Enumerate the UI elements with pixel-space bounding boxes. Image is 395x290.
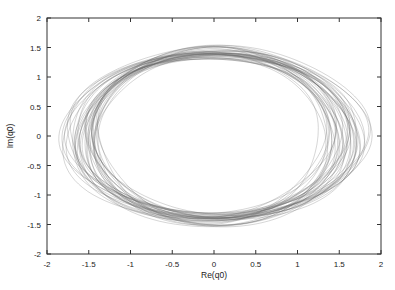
x-tick-label: -1	[127, 260, 135, 269]
orbit-curves	[59, 45, 372, 227]
x-tick-label: 1.5	[334, 260, 346, 269]
y-tick-label: -2	[34, 250, 42, 259]
phase-plot: -2-1.5-1-0.500.511.52 -2-1.5-1-0.500.511…	[0, 0, 395, 290]
x-tick-label: 2	[379, 260, 384, 269]
x-tick-label: -2	[43, 260, 51, 269]
y-axis-label: Im(q0)	[5, 124, 15, 149]
x-axis-label: Re(q0)	[201, 270, 227, 280]
x-tick-label: -0.5	[165, 260, 179, 269]
y-tick-label: 1.5	[30, 44, 42, 53]
y-tick-label: 2	[37, 14, 42, 23]
x-tick-label: 0	[212, 260, 217, 269]
x-tick-label: 1	[295, 260, 300, 269]
x-tick-label: -1.5	[82, 260, 96, 269]
y-tick-label: -1	[34, 191, 42, 200]
y-tick-label: 0	[37, 132, 42, 141]
x-tick-label: 0.5	[250, 260, 262, 269]
y-tick-label: -1.5	[27, 221, 41, 230]
y-tick-label: 1	[37, 73, 42, 82]
y-tick-label: -0.5	[27, 162, 41, 171]
y-tick-label: 0.5	[30, 103, 42, 112]
